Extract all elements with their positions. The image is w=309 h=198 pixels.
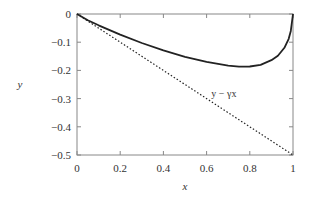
- line-chart: 0−0.1−0.2−0.3−0.4−0.5 00.20.40.60.81 x y…: [0, 0, 309, 198]
- y-axis-label: y: [17, 78, 23, 90]
- x-tick-label: 0.4: [157, 162, 171, 174]
- y-tick-label: 0: [66, 8, 72, 20]
- x-tick-label: 0: [74, 162, 80, 174]
- y-tick-label: −0.2: [51, 64, 71, 76]
- y-tick-label: −0.3: [51, 93, 71, 105]
- y-tick-label: −0.1: [51, 36, 71, 48]
- dotted-line-series: [77, 14, 293, 155]
- data-series: [77, 14, 293, 155]
- y-tick-label: −0.5: [51, 149, 71, 161]
- y-axis-ticks: 0−0.1−0.2−0.3−0.4−0.5: [51, 8, 293, 161]
- x-tick-label: 0.2: [113, 162, 127, 174]
- x-tick-label: 0.6: [200, 162, 214, 174]
- y-tick-label: −0.4: [51, 121, 71, 133]
- solid-curve-series: [77, 14, 293, 67]
- x-tick-label: 1: [290, 162, 296, 174]
- x-axis-ticks: 00.20.40.60.81: [74, 14, 296, 174]
- line-annotation: y − γx: [211, 88, 236, 99]
- x-tick-label: 0.8: [243, 162, 257, 174]
- x-axis-label: x: [182, 180, 188, 192]
